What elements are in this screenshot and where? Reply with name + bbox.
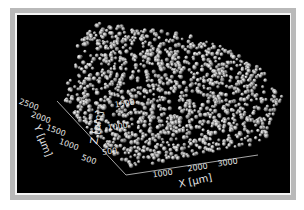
particle — [194, 115, 198, 119]
particle — [202, 79, 207, 84]
particle — [192, 57, 195, 60]
particle — [95, 34, 98, 37]
particle — [138, 111, 141, 114]
particle — [150, 79, 154, 83]
particle — [263, 118, 266, 121]
particle — [180, 91, 184, 95]
particle — [177, 56, 181, 60]
particle — [253, 106, 257, 110]
particle — [244, 136, 247, 139]
particle — [247, 130, 251, 134]
particle — [197, 83, 201, 87]
particle — [104, 86, 107, 89]
particle — [162, 141, 165, 144]
particle — [227, 103, 231, 107]
particle — [110, 31, 114, 35]
particle — [166, 81, 171, 86]
particle — [91, 84, 94, 87]
particle — [254, 136, 258, 140]
particle — [96, 47, 100, 51]
particle — [148, 89, 152, 93]
particle — [168, 40, 171, 43]
particle — [122, 82, 125, 85]
particle — [189, 78, 193, 82]
particle — [169, 137, 173, 141]
particle — [103, 99, 106, 102]
particle — [240, 60, 244, 64]
particle — [280, 95, 283, 98]
particle — [211, 82, 215, 86]
particle — [127, 152, 130, 155]
particle — [168, 148, 172, 152]
particle — [250, 98, 253, 101]
particle — [88, 77, 93, 82]
particle — [122, 46, 126, 50]
particle — [155, 146, 159, 150]
particle — [152, 156, 156, 160]
particle — [148, 123, 151, 126]
particle — [86, 126, 89, 129]
particle — [148, 85, 152, 89]
particle — [78, 118, 82, 122]
particle — [203, 142, 207, 146]
particle — [131, 31, 134, 34]
particle — [170, 81, 173, 84]
particle — [77, 55, 82, 60]
particle — [120, 68, 123, 71]
particle — [188, 121, 191, 124]
particle — [268, 122, 271, 125]
particle — [95, 91, 100, 96]
particle — [156, 125, 161, 130]
particle — [129, 47, 133, 51]
particle — [146, 35, 150, 39]
particle — [225, 146, 228, 149]
particle — [156, 99, 159, 102]
particle — [159, 90, 162, 93]
particle — [259, 68, 262, 71]
particle — [185, 114, 190, 119]
particle — [142, 64, 146, 68]
particle — [71, 97, 75, 101]
particle — [183, 104, 188, 109]
particle — [112, 141, 115, 144]
particle — [227, 117, 230, 120]
particle — [207, 143, 211, 147]
particle — [245, 72, 249, 76]
particle — [164, 131, 168, 135]
particle — [175, 137, 178, 140]
particle — [158, 81, 162, 85]
particle — [219, 45, 222, 48]
particle — [244, 90, 248, 94]
particle — [184, 88, 188, 92]
particle — [166, 116, 170, 120]
particle — [237, 54, 241, 58]
particle — [188, 62, 191, 65]
particle — [182, 155, 185, 158]
particle — [137, 120, 141, 124]
particle — [68, 100, 72, 104]
particle — [263, 78, 267, 82]
particle — [136, 141, 140, 145]
particle — [149, 53, 153, 57]
particle — [201, 65, 204, 68]
particle — [133, 145, 137, 149]
particle — [82, 38, 86, 42]
particle — [231, 55, 236, 60]
particle — [159, 108, 162, 111]
particle — [143, 95, 146, 98]
particle — [163, 108, 167, 112]
particle — [255, 98, 258, 101]
particle — [144, 141, 147, 144]
particle — [115, 27, 119, 31]
y-tick-label: 1000 — [58, 137, 80, 152]
particle — [246, 118, 250, 122]
particle — [244, 75, 247, 78]
particle-3d-plot: 100020003000 2500200015001000500 1500100… — [0, 0, 304, 210]
particle — [162, 82, 166, 86]
particle — [102, 137, 105, 140]
particle — [209, 133, 213, 137]
particle — [155, 154, 159, 158]
particle — [184, 56, 188, 60]
particle — [120, 39, 125, 44]
particle — [129, 163, 134, 168]
